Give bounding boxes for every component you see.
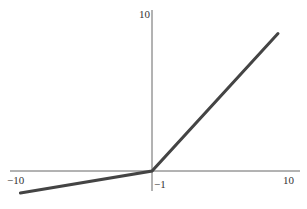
y-max-tick-label: 10 xyxy=(139,8,151,20)
chart: −10 10 10 −1 xyxy=(0,0,307,209)
series-line xyxy=(20,34,278,194)
y-min-tick-label: −1 xyxy=(154,178,166,190)
x-max-tick-label: 10 xyxy=(283,174,295,186)
x-min-tick-label: −10 xyxy=(7,174,25,186)
